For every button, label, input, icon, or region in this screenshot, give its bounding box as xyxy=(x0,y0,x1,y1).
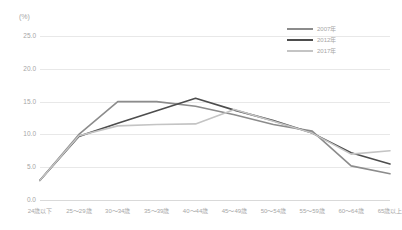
y-axis-tick-label: 5.0 xyxy=(2,164,36,171)
legend-item[interactable]: 2007年 xyxy=(287,23,387,34)
x-axis-tick-label: 50～54歳 xyxy=(261,208,286,214)
y-axis-tick-label: 0.0 xyxy=(2,197,36,204)
x-axis-tick-label: 65歳以上 xyxy=(378,208,402,214)
x-axis-tick-label: 55～59歳 xyxy=(300,208,325,214)
chart-legend: 2007年2012年2017年 xyxy=(287,23,387,56)
legend-swatch xyxy=(287,50,313,52)
legend-swatch xyxy=(287,39,313,41)
y-axis-tick-label: 20.0 xyxy=(2,66,36,73)
legend-swatch xyxy=(287,28,313,30)
legend-label: 2017年 xyxy=(317,48,336,54)
y-axis-tick-label: 15.0 xyxy=(2,99,36,106)
x-axis-tick-label: 24歳以下 xyxy=(28,208,53,214)
y-axis-unit-label: (%) xyxy=(19,13,30,20)
y-axis-tick-label: 25.0 xyxy=(2,33,36,40)
x-axis-tick-label: 40～44歳 xyxy=(183,208,208,214)
x-axis-tick-label: 45～49歳 xyxy=(222,208,247,214)
legend-item[interactable]: 2012年 xyxy=(287,34,387,45)
x-axis-tick-label: 60～64歳 xyxy=(338,208,363,214)
x-axis-tick-label: 30～34歳 xyxy=(105,208,130,214)
chart-series-lines xyxy=(40,36,390,200)
series-line xyxy=(40,102,390,181)
x-axis-tick-label: 25～29歳 xyxy=(66,208,91,214)
y-axis-tick-label: 10.0 xyxy=(2,131,36,138)
legend-label: 2012年 xyxy=(317,37,336,43)
x-axis-tick-label: 35～39歳 xyxy=(144,208,169,214)
legend-item[interactable]: 2017年 xyxy=(287,45,387,56)
gridline xyxy=(40,200,390,201)
series-line xyxy=(40,109,390,180)
legend-label: 2007年 xyxy=(317,26,336,32)
